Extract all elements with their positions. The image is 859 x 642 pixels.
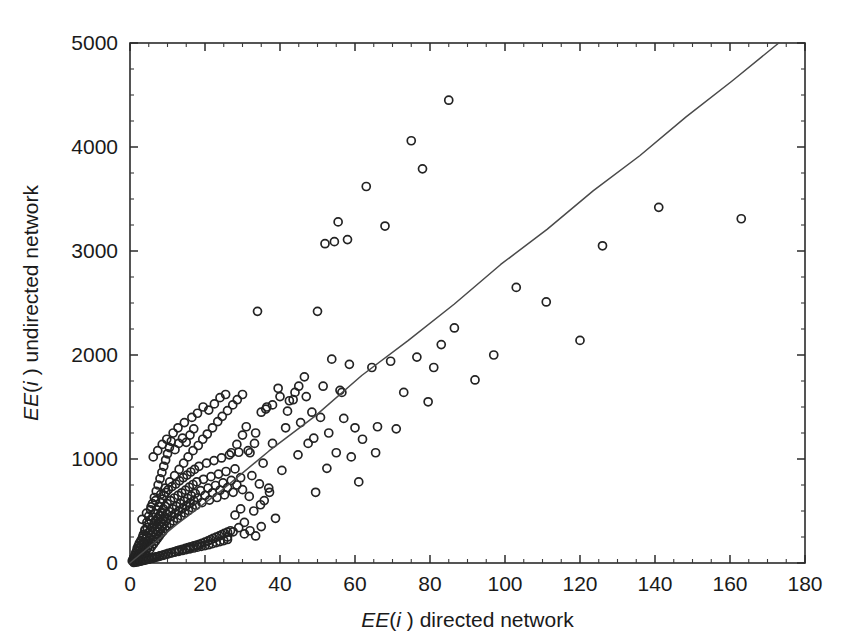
data-point	[274, 384, 282, 392]
data-point	[387, 357, 395, 365]
data-point	[542, 298, 550, 306]
data-point	[231, 465, 239, 473]
data-point	[295, 382, 303, 390]
data-point	[576, 336, 584, 344]
data-point	[199, 435, 207, 443]
data-point	[512, 283, 520, 291]
x-tick-label: 0	[124, 572, 136, 595]
data-point	[246, 449, 254, 457]
x-axis-title-text: EE(i ) directed network	[361, 608, 574, 631]
figure-container: 020406080100120140160180 010002000300040…	[0, 0, 859, 642]
data-point	[294, 451, 302, 459]
data-point	[345, 360, 353, 368]
data-point	[347, 453, 355, 461]
data-point	[737, 215, 745, 223]
data-point	[407, 137, 415, 145]
data-point	[362, 183, 370, 191]
trend-line-path	[130, 43, 779, 563]
data-point	[314, 307, 322, 315]
data-point	[355, 478, 363, 486]
data-point	[250, 507, 258, 515]
data-point	[323, 464, 331, 472]
data-point	[252, 429, 260, 437]
data-point	[450, 324, 458, 332]
data-point	[282, 424, 290, 432]
data-point	[340, 414, 348, 422]
x-axis-title: EE(i ) directed network	[361, 608, 574, 631]
data-point	[351, 424, 359, 432]
x-tick-label: 180	[787, 572, 822, 595]
x-tick-label: 160	[712, 572, 747, 595]
data-point	[276, 393, 284, 401]
data-point	[233, 440, 241, 448]
data-point	[254, 307, 262, 315]
data-point	[328, 355, 336, 363]
data-point	[381, 222, 389, 230]
data-point	[255, 480, 263, 488]
data-point	[272, 514, 280, 522]
y-tick-label: 4000	[71, 135, 118, 158]
data-point	[334, 218, 342, 226]
data-point	[257, 523, 265, 531]
data-point	[437, 341, 445, 349]
data-point	[319, 382, 327, 390]
trend-line	[130, 43, 779, 563]
data-point	[242, 423, 250, 431]
data-point	[245, 492, 253, 500]
data-point	[158, 440, 166, 448]
data-point	[300, 373, 308, 381]
data-point	[229, 401, 237, 409]
data-point	[302, 393, 310, 401]
data-point	[372, 449, 380, 457]
y-tick-label: 0	[106, 551, 118, 574]
data-point	[445, 96, 453, 104]
y-axis-title: EE(i ) undirected network	[19, 185, 42, 421]
x-tick-label: 80	[418, 572, 441, 595]
x-tick-label: 120	[562, 572, 597, 595]
data-point	[471, 376, 479, 384]
data-point	[237, 505, 245, 513]
data-point	[218, 454, 226, 462]
data-point	[239, 391, 247, 399]
data-point	[330, 238, 338, 246]
y-tick-label: 1000	[71, 447, 118, 470]
data-point	[239, 431, 247, 439]
data-point	[332, 449, 340, 457]
y-axis-tick-labels: 010002000300040005000	[71, 31, 118, 574]
data-point	[344, 236, 352, 244]
data-point	[239, 486, 247, 494]
data-point	[655, 203, 663, 211]
data-point	[413, 353, 421, 361]
data-point	[400, 388, 408, 396]
x-tick-label: 60	[343, 572, 366, 595]
x-tick-label: 20	[193, 572, 216, 595]
data-point	[278, 466, 286, 474]
data-point	[251, 439, 259, 447]
data-point	[359, 435, 367, 443]
x-tick-label: 40	[268, 572, 291, 595]
y-tick-label: 2000	[71, 343, 118, 366]
data-point	[180, 419, 188, 427]
y-tick-label: 5000	[71, 31, 118, 54]
data-point	[248, 472, 256, 480]
data-point	[599, 242, 607, 250]
data-point	[321, 240, 329, 248]
data-point	[325, 429, 333, 437]
x-axis-tick-labels: 020406080100120140160180	[124, 572, 822, 595]
data-point	[252, 532, 260, 540]
data-point	[312, 488, 320, 496]
scatter-plot: 020406080100120140160180 010002000300040…	[0, 0, 859, 642]
data-point	[308, 408, 316, 416]
x-tick-label: 100	[487, 572, 522, 595]
data-point	[310, 434, 318, 442]
data-point	[222, 467, 230, 475]
data-point	[392, 425, 400, 433]
data-point	[374, 423, 382, 431]
data-point	[490, 351, 498, 359]
data-point	[419, 165, 427, 173]
y-tick-label: 3000	[71, 239, 118, 262]
data-point	[188, 413, 196, 421]
data-point	[214, 418, 222, 426]
data-point	[430, 363, 438, 371]
scatter-points	[128, 96, 745, 566]
